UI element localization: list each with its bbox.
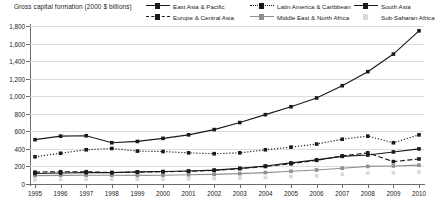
- x-axis-label: 2007: [335, 190, 349, 197]
- legend-item-east-asia-pacific[interactable]: East Asia & Pacific: [146, 2, 225, 10]
- data-point-marker: [340, 84, 344, 88]
- x-axis-tick: [61, 184, 62, 188]
- data-point-marker: [161, 150, 165, 154]
- data-point-marker: [161, 177, 165, 181]
- chart-title: Gross capital formation (2000 $ billions…: [14, 3, 132, 10]
- x-axis-tick: [265, 184, 266, 188]
- series-east-asia-pacific: [33, 29, 421, 145]
- legend-marker-icon: [146, 13, 170, 21]
- data-point-marker: [33, 155, 37, 159]
- data-point-marker: [340, 166, 344, 170]
- data-point-marker: [238, 167, 242, 171]
- data-point-marker: [417, 163, 421, 167]
- data-point-marker: [340, 137, 344, 141]
- data-point-marker: [417, 29, 421, 33]
- data-point-marker: [59, 134, 63, 138]
- x-axis-tick: [112, 184, 113, 188]
- data-point-marker: [212, 169, 216, 173]
- x-axis-label: 2006: [310, 190, 324, 197]
- data-point-marker: [289, 105, 293, 109]
- x-axis-tick: [214, 184, 215, 188]
- data-point-marker: [212, 152, 216, 156]
- data-point-marker: [136, 170, 140, 174]
- legend-marker-icon: [146, 2, 170, 10]
- data-point-marker: [161, 170, 165, 174]
- legend-item-latin-america-caribbean[interactable]: Latin America & Caribbean: [250, 2, 351, 10]
- data-point-marker: [187, 169, 191, 173]
- x-axis-tick: [163, 184, 164, 188]
- y-axis-label: 800: [14, 110, 25, 117]
- data-point-marker: [315, 159, 319, 163]
- y-axis-label: 1,000: [9, 93, 25, 100]
- data-point-marker: [264, 171, 268, 175]
- data-point-marker: [315, 96, 319, 100]
- data-point-marker: [366, 70, 370, 74]
- x-axis-tick: [240, 184, 241, 188]
- data-point-marker: [136, 177, 140, 181]
- data-point-marker: [33, 170, 37, 174]
- data-point-marker: [187, 173, 191, 177]
- data-point-marker: [315, 142, 319, 146]
- data-point-marker: [59, 178, 63, 182]
- x-axis-label: 1996: [54, 190, 68, 197]
- data-point-marker: [366, 151, 370, 155]
- x-axis-tick: [419, 184, 420, 188]
- chart-legend: East Asia & PacificLatin America & Carib…: [146, 2, 434, 24]
- legend-item-sub-saharan-africa[interactable]: Sub-Saharan Africa: [354, 13, 435, 21]
- data-point-marker: [110, 171, 114, 175]
- data-point-marker: [238, 176, 242, 180]
- data-point-marker: [392, 141, 396, 145]
- data-point-marker: [212, 173, 216, 177]
- x-axis-label: 2000: [156, 190, 170, 197]
- data-point-marker: [392, 164, 396, 168]
- legend-marker-icon: [250, 13, 274, 21]
- y-axis-label: 1,200: [9, 75, 25, 82]
- data-point-marker: [264, 148, 268, 152]
- data-point-marker: [110, 141, 114, 145]
- data-point-marker: [110, 147, 114, 151]
- legend-item-south-asia[interactable]: South Asia: [354, 2, 411, 10]
- legend-item-middle-east-north-africa[interactable]: Middle East & North Africa: [250, 13, 349, 21]
- x-axis-label: 2009: [386, 190, 400, 197]
- legend-item-europe-central-asia[interactable]: Europe & Central Asia: [146, 13, 234, 21]
- x-axis-label: 1997: [79, 190, 93, 197]
- x-axis-label: 2002: [207, 190, 221, 197]
- x-axis-tick: [317, 184, 318, 188]
- x-axis-label: 2004: [258, 190, 272, 197]
- data-point-marker: [366, 134, 370, 138]
- data-point-marker: [33, 178, 37, 182]
- data-point-marker: [187, 151, 191, 155]
- data-point-marker: [84, 178, 88, 182]
- data-point-marker: [136, 140, 140, 144]
- data-point-marker: [289, 169, 293, 173]
- series-line: [35, 31, 419, 143]
- x-axis-label: 2001: [182, 190, 196, 197]
- x-axis-label: 2008: [361, 190, 375, 197]
- data-point-marker: [212, 128, 216, 132]
- x-axis-label: 2003: [233, 190, 247, 197]
- x-axis-tick: [393, 184, 394, 188]
- data-point-marker: [59, 170, 63, 174]
- legend-label: East Asia & Pacific: [173, 3, 225, 10]
- data-point-marker: [315, 174, 319, 178]
- series-south-asia: [33, 147, 421, 175]
- data-point-marker: [366, 171, 370, 175]
- data-point-marker: [264, 176, 268, 180]
- x-axis-tick: [137, 184, 138, 188]
- data-point-marker: [136, 174, 140, 178]
- series-layer: [30, 26, 424, 184]
- x-axis-tick: [342, 184, 343, 188]
- data-point-marker: [340, 154, 344, 158]
- data-point-marker: [84, 134, 88, 138]
- legend-label: South Asia: [381, 3, 411, 10]
- data-point-marker: [84, 148, 88, 152]
- data-point-marker: [59, 151, 63, 155]
- x-axis-tick: [368, 184, 369, 188]
- x-axis-label: 2005: [284, 190, 298, 197]
- x-axis-label: 1998: [105, 190, 119, 197]
- data-point-marker: [289, 145, 293, 149]
- x-axis-line: [29, 184, 425, 185]
- x-axis-label: 1999: [130, 190, 144, 197]
- data-point-marker: [315, 168, 319, 172]
- data-point-marker: [340, 173, 344, 177]
